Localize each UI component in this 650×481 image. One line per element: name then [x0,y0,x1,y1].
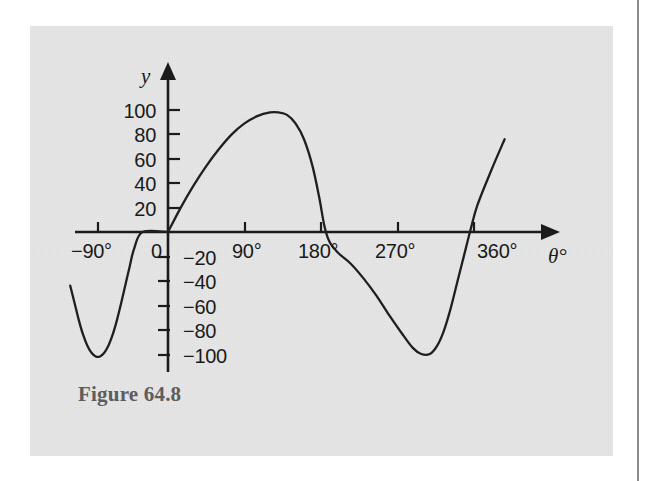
y-tick-label--100: −100 [183,346,227,366]
y-axis-arrowhead [160,62,176,80]
column-rule [637,0,639,481]
y-tick-label--20: −20 [183,248,216,268]
y-tick-label-100: 100 [104,101,156,121]
book-page: 100 80 60 40 20 −20 −40 −60 −80 −100 −90… [0,0,650,481]
x-tick-label-180: 180° [298,241,338,261]
x-tick-label-360: 360° [477,241,517,261]
y-tick-label-40: 40 [104,174,156,194]
x-tick-label--90: −90° [71,241,112,261]
figure-caption: Figure 64.8 [78,382,181,407]
x-tick-label-90: 90° [232,241,261,261]
x-axis-arrowhead [541,224,560,240]
y-tick-label-80: 80 [104,125,156,145]
y-tick-label--80: −80 [183,321,216,341]
y-axis-label: y [141,66,150,87]
y-tick-label--40: −40 [183,272,216,292]
x-tick-label-270: 270° [375,241,415,261]
y-tick-label-20: 20 [104,199,156,219]
y-tick-label-60: 60 [104,150,156,170]
x-axis-label: θ° [548,246,567,267]
y-tick-label--60: −60 [183,297,216,317]
waveform-curve-main-branch [168,112,505,355]
x-tick-label-0: 0 [151,241,162,261]
